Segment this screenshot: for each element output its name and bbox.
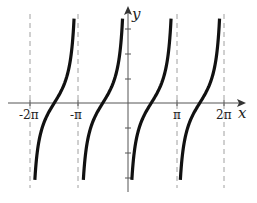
curve-branch-4 (180, 19, 219, 180)
curves (35, 19, 220, 180)
tick-label-pi: π (173, 108, 181, 122)
x-axis-label: x (238, 104, 247, 122)
tick-label-2pi: 2π (216, 108, 232, 122)
asymptotes (30, 14, 224, 188)
cotangent-graph: -2π -π π 2π x y (0, 0, 257, 203)
tick-label-neg-2pi: -2π (19, 108, 39, 122)
curve-branch-2 (83, 19, 122, 180)
axes (8, 12, 240, 192)
curve-branch-1 (35, 19, 74, 180)
y-axis-label: y (131, 5, 141, 23)
tick-label-neg-pi: -π (70, 108, 82, 122)
curve-branch-3 (132, 19, 171, 180)
